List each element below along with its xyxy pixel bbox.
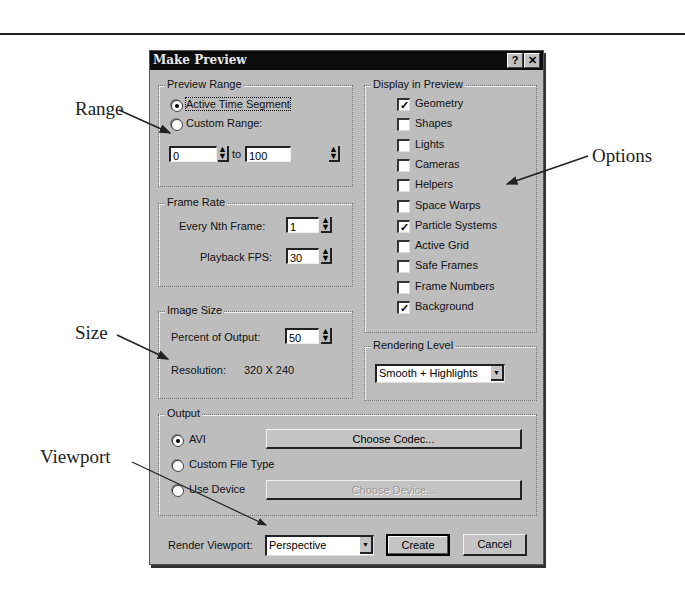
percent-of-output-input[interactable]: 50 [285,328,319,344]
preview-range-label: Preview Range [165,78,244,90]
annotation-viewport: Viewport [40,446,111,468]
use-device-radio[interactable] [172,485,184,497]
checkbox-safe-frames[interactable] [397,260,410,273]
resolution-label: Resolution: [171,364,226,376]
close-icon: ✕ [528,54,537,66]
avi-radio[interactable] [172,435,184,447]
checkmark-icon: ✓ [400,99,409,111]
range-to-spinner[interactable]: ▲▼ [329,146,340,162]
render-viewport-label: Render Viewport: [168,539,253,551]
checkbox-label[interactable]: Particle Systems [415,219,497,231]
checkbox-label[interactable]: Cameras [415,158,460,170]
dialog-title: Make Preview [153,53,247,67]
frame-rate-label: Frame Rate [165,196,227,208]
checkbox-label[interactable]: Space Warps [415,199,481,211]
custom-range-label[interactable]: Custom Range: [186,117,262,129]
playback-fps-label: Playback FPS: [200,251,272,263]
choose-device-button[interactable]: Choose Device... [266,480,522,500]
playback-fps-spinner[interactable]: ▲▼ [321,248,332,264]
active-time-segment-radio[interactable] [171,100,183,112]
every-nth-frame-spinner[interactable]: ▲▼ [321,217,332,233]
checkbox-label[interactable]: Background [415,300,474,312]
title-bar: Make Preview ? ✕ [150,51,543,70]
display-in-preview-group: Display in Preview ✓GeometryShapesLights… [364,85,537,333]
custom-file-type-radio[interactable] [172,460,184,472]
range-from-spinner[interactable]: ▲▼ [218,146,229,162]
checkbox-helpers[interactable] [397,179,410,192]
every-nth-frame-label: Every Nth Frame: [179,220,265,232]
choose-codec-button[interactable]: Choose Codec... [266,429,522,449]
render-viewport-value: Perspective [269,539,326,551]
rendering-level-label: Rendering Level [371,339,455,351]
checkbox-label[interactable]: Frame Numbers [415,280,494,292]
checkbox-label[interactable]: Safe Frames [415,259,478,271]
frame-rate-group: Frame Rate Every Nth Frame: 1 ▲▼ Playbac… [158,203,353,287]
custom-range-radio[interactable] [171,119,183,131]
range-to-label: to [232,148,241,160]
annotation-size: Size [75,322,108,344]
checkmark-icon: ✓ [400,221,409,233]
chevron-down-icon[interactable]: ▼ [491,366,504,381]
checkbox-lights[interactable] [397,139,410,152]
checkbox-label[interactable]: Helpers [415,178,453,190]
checkbox-label[interactable]: Geometry [415,97,463,109]
help-button[interactable]: ? [507,53,523,68]
output-label: Output [165,407,202,419]
checkbox-active-grid[interactable] [397,240,410,253]
checkbox-cameras[interactable] [397,159,410,172]
checkbox-label[interactable]: Lights [415,138,444,150]
checkbox-background[interactable]: ✓ [397,301,410,314]
resolution-value: 320 X 240 [244,364,294,376]
checkbox-label[interactable]: Shapes [415,117,452,129]
avi-label[interactable]: AVI [189,433,206,445]
output-group: Output AVI Choose Codec... Custom File T… [158,414,537,516]
use-device-label[interactable]: Use Device [189,483,245,495]
checkbox-frame-numbers[interactable] [397,281,410,294]
preview-range-group: Preview Range Active Time Segment Custom… [158,85,353,187]
annotation-options: Options [592,145,652,167]
range-from-input[interactable]: 0 [169,146,217,162]
range-to-input[interactable]: 100 [245,146,291,162]
rendering-level-select[interactable]: Smooth + Highlights ▼ [375,364,505,383]
checkbox-space-warps[interactable] [397,200,410,213]
checkbox-geometry[interactable]: ✓ [397,98,410,111]
image-size-label: Image Size [165,304,224,316]
close-button[interactable]: ✕ [524,53,540,68]
create-button[interactable]: Create [386,534,450,556]
rendering-level-value: Smooth + Highlights [379,367,478,379]
make-preview-dialog: Make Preview ? ✕ Preview Range Active Ti… [149,50,544,565]
active-time-segment-label[interactable]: Active Time Segment [186,98,290,110]
checkbox-shapes[interactable] [397,118,410,131]
rendering-level-group: Rendering Level Smooth + Highlights ▼ [364,346,537,401]
display-in-preview-label: Display in Preview [371,78,465,90]
checkmark-icon: ✓ [400,302,409,314]
chevron-down-icon[interactable]: ▼ [360,537,373,554]
checkbox-label[interactable]: Active Grid [415,239,469,251]
playback-fps-input[interactable]: 30 [286,248,319,264]
percent-of-output-spinner[interactable]: ▲▼ [321,328,332,344]
render-viewport-select[interactable]: Perspective ▼ [265,535,374,556]
checkbox-particle-systems[interactable]: ✓ [397,220,410,233]
custom-file-type-label[interactable]: Custom File Type [189,458,274,470]
page-divider [0,33,685,35]
annotation-range: Range [75,98,124,120]
percent-of-output-label: Percent of Output: [171,331,260,343]
cancel-button[interactable]: Cancel [463,534,527,556]
every-nth-frame-input[interactable]: 1 [286,217,319,233]
image-size-group: Image Size Percent of Output: 50 ▲▼ Reso… [158,311,353,399]
